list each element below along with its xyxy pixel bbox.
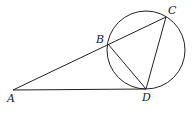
label-B: B [95, 33, 104, 46]
segment-AD [13, 89, 146, 90]
segment-AC [13, 17, 166, 90]
label-D: D [141, 91, 151, 104]
label-A: A [6, 92, 15, 105]
geometry-diagram: A B C D [0, 0, 192, 117]
circle [107, 11, 185, 89]
segment-CD [146, 17, 166, 89]
segment-BD [108, 44, 146, 89]
label-C: C [168, 4, 177, 17]
